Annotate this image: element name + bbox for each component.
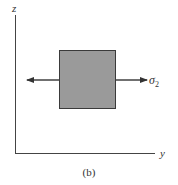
y-axis-label: y	[159, 147, 165, 159]
sigma-2-label: σ2	[149, 73, 159, 89]
figure-caption: (b)	[83, 166, 96, 179]
z-axis-label: z	[11, 2, 17, 14]
sigma-subscript: 2	[155, 80, 159, 89]
stress-diagram: z y σ2 (b)	[0, 0, 178, 185]
stress-element	[60, 51, 116, 109]
